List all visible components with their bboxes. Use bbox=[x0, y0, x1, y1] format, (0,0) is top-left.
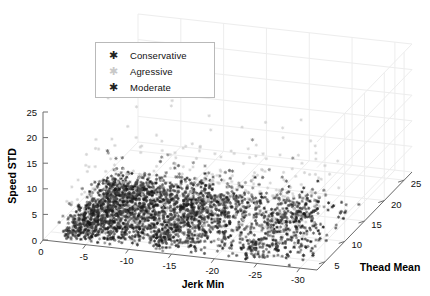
svg-text:0: 0 bbox=[32, 235, 37, 246]
legend-label-moderate: Moderate bbox=[130, 82, 171, 93]
svg-text:10: 10 bbox=[351, 239, 362, 250]
legend-marker-conservative: ✱ bbox=[96, 50, 130, 61]
legend-label-agressive: Agressive bbox=[130, 66, 173, 77]
legend-marker-moderate: ✱ bbox=[96, 82, 130, 93]
svg-text:25: 25 bbox=[26, 107, 37, 118]
svg-text:5: 5 bbox=[32, 209, 37, 220]
svg-text:-20: -20 bbox=[205, 265, 219, 276]
svg-text:15: 15 bbox=[26, 158, 37, 169]
z-axis-label: Thead Mean bbox=[360, 261, 421, 273]
data-points bbox=[57, 80, 360, 267]
legend-marker-agressive: ✱ bbox=[96, 66, 130, 77]
svg-text:-25: -25 bbox=[248, 269, 262, 280]
svg-text:15: 15 bbox=[371, 219, 382, 230]
svg-text:5: 5 bbox=[334, 260, 339, 271]
legend-item: ✱ Conservative bbox=[96, 47, 214, 63]
svg-text:10: 10 bbox=[26, 183, 37, 194]
legend: ✱ Conservative ✱ Agressive ✱ Moderate bbox=[95, 42, 215, 98]
svg-text:-15: -15 bbox=[163, 260, 177, 271]
svg-text:-30: -30 bbox=[291, 274, 305, 285]
x-axis-label: Jerk Min bbox=[182, 278, 225, 290]
legend-label-conservative: Conservative bbox=[130, 50, 187, 61]
svg-text:0: 0 bbox=[38, 246, 43, 257]
svg-text:-10: -10 bbox=[120, 255, 134, 266]
y-axis-label: Speed STD bbox=[6, 148, 18, 204]
figure-3d-scatter: 0-5-10-15-20-25-305101520250510152025 Je… bbox=[0, 0, 430, 296]
svg-text:-5: -5 bbox=[80, 251, 88, 262]
plot-canvas: 0-5-10-15-20-25-305101520250510152025 Je… bbox=[0, 0, 430, 296]
legend-item: ✱ Moderate bbox=[96, 79, 214, 95]
legend-item: ✱ Agressive bbox=[96, 63, 214, 79]
svg-text:20: 20 bbox=[391, 199, 402, 210]
svg-text:25: 25 bbox=[411, 178, 422, 189]
svg-text:20: 20 bbox=[26, 132, 37, 143]
